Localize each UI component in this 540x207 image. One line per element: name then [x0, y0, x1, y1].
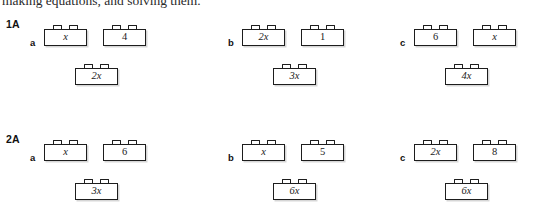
- lego-brick[interactable]: 1: [301, 24, 344, 47]
- lego-brick[interactable]: 8: [473, 139, 516, 162]
- intro-text: making equations, and solving them.: [2, 0, 538, 8]
- brick-body: x: [44, 144, 87, 161]
- brick-row-top: x5: [242, 139, 344, 162]
- lego-brick[interactable]: 4x: [445, 63, 488, 86]
- brick-label: 8: [492, 147, 497, 158]
- problem-item-2a-b: bx56x: [228, 133, 368, 205]
- brick-label: 1: [320, 32, 325, 43]
- item-letter: b: [228, 152, 234, 163]
- brick-label: 2x: [92, 71, 102, 82]
- brick-body: 6x: [273, 183, 316, 200]
- brick-body: 2x: [75, 68, 118, 85]
- lego-brick[interactable]: x: [44, 24, 87, 47]
- problem-item-1a-a: ax42x: [30, 18, 170, 90]
- problem-item-1a-b: b2x13x: [228, 18, 368, 90]
- lego-brick[interactable]: 2x: [75, 63, 118, 86]
- lego-brick[interactable]: 5: [301, 139, 344, 162]
- brick-label: 5: [320, 147, 325, 158]
- brick-row-top: 2x8: [414, 139, 516, 162]
- brick-row-top: 6x: [414, 24, 516, 47]
- brick-label: 2x: [431, 147, 441, 158]
- brick-label: 3x: [290, 71, 300, 82]
- brick-row-top: x4: [44, 24, 146, 47]
- brick-label: 6: [433, 32, 438, 43]
- brick-label: 6x: [462, 186, 472, 197]
- lego-brick[interactable]: 3x: [75, 178, 118, 201]
- brick-row-bottom: 2x: [75, 63, 118, 86]
- item-letter: c: [400, 152, 405, 163]
- lego-brick[interactable]: 6x: [445, 178, 488, 201]
- brick-row-bottom: 6x: [273, 178, 316, 201]
- section-label: 2A: [6, 133, 20, 145]
- brick-body: 2x: [414, 144, 457, 161]
- item-letter: a: [30, 37, 35, 48]
- lego-brick[interactable]: 3x: [273, 63, 316, 86]
- brick-body: 4x: [445, 68, 488, 85]
- brick-label: x: [63, 32, 68, 43]
- brick-row-bottom: 6x: [445, 178, 488, 201]
- lego-brick[interactable]: 6: [414, 24, 457, 47]
- item-letter: b: [228, 37, 234, 48]
- lego-brick[interactable]: 6: [103, 139, 146, 162]
- brick-label: x: [261, 147, 266, 158]
- item-letter: c: [400, 37, 405, 48]
- problem-item-2a-c: c2x86x: [400, 133, 540, 205]
- brick-label: x: [63, 147, 68, 158]
- brick-row-top: 2x1: [242, 24, 344, 47]
- brick-body: 6: [414, 29, 457, 46]
- brick-row-top: x6: [44, 139, 146, 162]
- brick-row-bottom: 3x: [273, 63, 316, 86]
- brick-body: x: [44, 29, 87, 46]
- brick-label: 2x: [259, 32, 269, 43]
- section-label: 1A: [6, 18, 20, 30]
- lego-brick[interactable]: 6x: [273, 178, 316, 201]
- lego-brick[interactable]: x: [44, 139, 87, 162]
- brick-body: 3x: [75, 183, 118, 200]
- brick-body: x: [473, 29, 516, 46]
- brick-body: 8: [473, 144, 516, 161]
- brick-label: 4: [122, 32, 127, 43]
- brick-row-bottom: 3x: [75, 178, 118, 201]
- problem-item-2a-a: ax63x: [30, 133, 170, 205]
- lego-brick[interactable]: x: [242, 139, 285, 162]
- brick-body: 5: [301, 144, 344, 161]
- brick-label: 3x: [92, 186, 102, 197]
- brick-label: 4x: [462, 71, 472, 82]
- brick-body: 6: [103, 144, 146, 161]
- brick-body: 6x: [445, 183, 488, 200]
- problem-item-1a-c: c6x4x: [400, 18, 540, 90]
- lego-brick[interactable]: 2x: [414, 139, 457, 162]
- brick-label: 6x: [290, 186, 300, 197]
- worksheet-page: making equations, and solving them. 1Aax…: [0, 0, 540, 207]
- brick-body: 2x: [242, 29, 285, 46]
- brick-label: 6: [122, 147, 127, 158]
- brick-label: x: [492, 32, 497, 43]
- lego-brick[interactable]: 2x: [242, 24, 285, 47]
- brick-body: 1: [301, 29, 344, 46]
- brick-body: 3x: [273, 68, 316, 85]
- lego-brick[interactable]: 4: [103, 24, 146, 47]
- lego-brick[interactable]: x: [473, 24, 516, 47]
- item-letter: a: [30, 152, 35, 163]
- brick-body: 4: [103, 29, 146, 46]
- brick-body: x: [242, 144, 285, 161]
- brick-row-bottom: 4x: [445, 63, 488, 86]
